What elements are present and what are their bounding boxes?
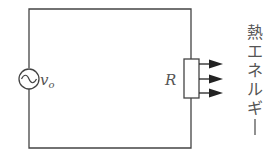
arrow-right-icon bbox=[209, 60, 223, 69]
arrow-right-icon bbox=[209, 89, 223, 98]
arrow-right-icon bbox=[209, 75, 223, 84]
resistor-icon bbox=[184, 59, 199, 98]
source-label: vo bbox=[40, 71, 55, 90]
circuit-svg: vo R 熱 エ ネ ル ギ bbox=[0, 0, 275, 164]
svg-text:ル: ル bbox=[247, 80, 263, 99]
circuit-diagram: vo R 熱 エ ネ ル ギ bbox=[0, 0, 275, 164]
svg-text:ギ: ギ bbox=[247, 99, 263, 118]
svg-text:熱: 熱 bbox=[247, 23, 263, 42]
ac-source-icon bbox=[19, 69, 39, 89]
heat-arrows bbox=[199, 60, 223, 98]
heat-energy-label: 熱 エ ネ ル ギ bbox=[247, 23, 263, 135]
svg-text:ネ: ネ bbox=[247, 61, 263, 80]
bottom-wire bbox=[29, 89, 191, 148]
resistor-label: R bbox=[164, 71, 176, 89]
top-wire bbox=[29, 9, 191, 68]
svg-text:エ: エ bbox=[247, 42, 263, 61]
